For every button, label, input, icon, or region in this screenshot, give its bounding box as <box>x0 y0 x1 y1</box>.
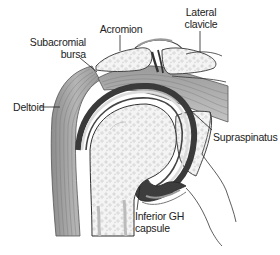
label-inferior-gh-capsule-line1: Inferior GH <box>135 210 184 222</box>
label-lateral-clavicle-line2: clavicle <box>180 18 222 30</box>
label-acromion: Acromion <box>98 23 144 35</box>
skin-contour <box>186 188 222 246</box>
label-lateral-clavicle: Lateral clavicle <box>180 6 222 30</box>
label-subacromial-bursa-line1: Subacromial <box>20 36 86 48</box>
label-subacromial-bursa: Subacromial bursa <box>20 36 86 60</box>
label-lateral-clavicle-line1: Lateral <box>180 6 222 18</box>
label-deltoid: Deltoid <box>13 101 44 113</box>
label-inferior-gh-capsule: Inferior GH capsule <box>135 210 184 234</box>
label-supraspinatus: Supraspinatus <box>213 131 278 143</box>
label-inferior-gh-capsule-line2: capsule <box>135 222 184 234</box>
label-subacromial-bursa-line2: bursa <box>20 48 86 60</box>
shoulder-anatomy-diagram: Lateral clavicle Acromion Subacromial bu… <box>0 0 280 255</box>
acromion-bone <box>96 48 152 72</box>
